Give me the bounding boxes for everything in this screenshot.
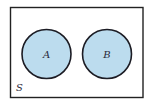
venn-diagram: A B S [0,0,150,104]
sample-space-label: S [16,82,23,93]
set-a-label: A [42,49,50,60]
set-b-label: B [102,49,110,60]
